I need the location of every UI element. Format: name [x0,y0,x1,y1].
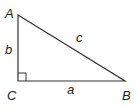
side-label-a: a [67,82,74,97]
right-angle-marker [18,73,26,81]
triangle-shape [18,15,125,81]
vertex-label-b: B [122,88,131,103]
side-label-c: c [76,30,83,45]
side-label-b: b [5,42,12,57]
vertex-label-c: C [7,88,17,103]
vertex-label-a: A [4,6,14,21]
right-triangle-diagram: A b c C a B [0,0,138,108]
